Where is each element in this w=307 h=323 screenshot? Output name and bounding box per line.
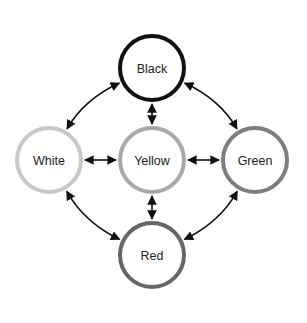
node-red: Red xyxy=(120,223,184,287)
node-label-black: Black xyxy=(137,62,168,76)
node-label-white: White xyxy=(33,154,65,168)
color-relationship-diagram: BlackWhiteYellowGreenRed xyxy=(0,0,307,323)
arrow-green-red xyxy=(184,191,237,239)
arrow-white-red xyxy=(67,191,120,239)
node-label-red: Red xyxy=(141,249,164,263)
node-black: Black xyxy=(120,36,184,100)
node-white: White xyxy=(17,128,81,192)
arrow-black-white xyxy=(67,83,119,129)
node-green: Green xyxy=(223,128,287,192)
node-yellow: Yellow xyxy=(120,128,184,192)
arrow-black-green xyxy=(185,83,237,129)
node-label-green: Green xyxy=(238,154,273,168)
node-label-yellow: Yellow xyxy=(134,154,171,168)
